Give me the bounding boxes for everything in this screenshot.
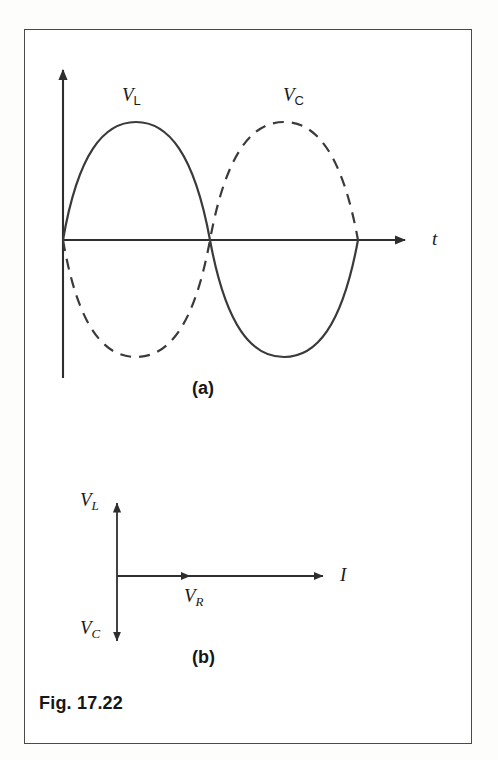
waveform-axes (63, 70, 405, 378)
waveform-label-vl-sub: L (134, 93, 141, 108)
figure-caption: Fig. 17.22 (39, 694, 123, 712)
waveform-label-vc-var: V (283, 84, 295, 105)
part-b-label: (b) (192, 648, 215, 666)
waveform-label-vl-var: V (122, 84, 134, 105)
phasor-label-vr-sub: R (196, 594, 204, 609)
phasor-label-vl-sub: L (92, 498, 99, 513)
phasor-axes (117, 503, 323, 641)
waveform-label-vc: VC (283, 85, 304, 107)
phasor-label-vl: VL (80, 490, 99, 512)
phasor-label-vc-var: V (80, 617, 92, 638)
waveform-t-axis-label: t (432, 229, 437, 248)
phasor-label-vr: VR (184, 586, 204, 608)
phasor-label-vr-var: V (184, 585, 196, 606)
waveform-label-vl: VL (122, 85, 141, 107)
phasor-label-vc-sub: C (92, 626, 101, 641)
phasor-label-vl-var: V (80, 489, 92, 510)
phasor-label-vc: VC (80, 618, 100, 640)
part-a-label: (a) (192, 379, 214, 397)
figure-page: VL VC t (a) VL VC VR I (b) Fig. 17.22 (0, 0, 498, 760)
figure-drawing (0, 0, 498, 760)
phasor-label-i: I (340, 565, 346, 584)
waveform-label-vc-sub: C (295, 93, 304, 108)
